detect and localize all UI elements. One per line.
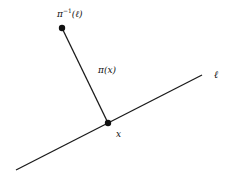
line-ell-label: ℓ [214,70,218,80]
point-preimage [59,25,65,31]
segment-pi-x [62,28,108,123]
preimage-label: π−1(ℓ) [57,8,83,19]
point-x [105,120,111,126]
diagram-svg [0,0,229,179]
preimage-label-sup: −1 [63,7,72,14]
segment-label: π(x) [98,66,116,75]
preimage-label-arg: (ℓ) [72,9,83,19]
diagram-canvas: π−1(ℓ) π(x) x ℓ [0,0,229,179]
point-x-label: x [116,130,121,139]
